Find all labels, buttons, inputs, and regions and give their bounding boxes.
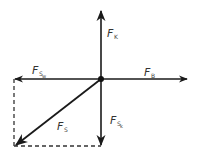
svg-text:F: F <box>144 66 151 79</box>
label-fk: F K <box>107 27 119 40</box>
svg-text:F: F <box>57 120 64 133</box>
svg-text:K: K <box>114 33 119 40</box>
label-fb: F B <box>144 66 155 79</box>
svg-text:F: F <box>32 64 39 77</box>
svg-text:w: w <box>42 73 46 79</box>
force-diagram: F K F B F S w F S k F S <box>0 0 202 159</box>
vector-fs-arrow <box>16 79 101 145</box>
svg-text:F: F <box>110 114 117 127</box>
origin-point <box>98 76 104 82</box>
svg-text:B: B <box>151 72 155 79</box>
label-fsw: F S w <box>32 64 46 79</box>
label-fsk: F S k <box>110 114 123 129</box>
svg-text:F: F <box>107 27 114 40</box>
svg-text:k: k <box>120 123 123 129</box>
label-fs: F S <box>57 120 68 133</box>
svg-text:S: S <box>64 126 68 133</box>
